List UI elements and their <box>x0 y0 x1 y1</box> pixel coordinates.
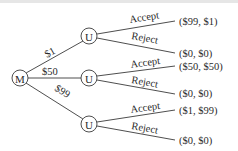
node-m: M <box>12 70 28 86</box>
payoff-reject-1: ($0, $0) <box>179 48 213 60</box>
payoff-accept-99: ($1, $99) <box>179 105 218 117</box>
offer-label-1: $1 <box>43 45 58 60</box>
node-u-99: U <box>81 116 97 132</box>
reject-label-99: Reject <box>131 120 159 136</box>
node-u-50-label: U <box>85 73 93 85</box>
offer-label-50: $50 <box>42 66 58 77</box>
accept-label-1: Accept <box>129 9 160 25</box>
node-u-1: U <box>81 28 97 44</box>
reject-label-1: Reject <box>131 30 159 46</box>
payoff-accept-50: ($50, $50) <box>179 61 223 73</box>
node-u-1-label: U <box>85 31 93 43</box>
node-m-label: M <box>15 73 25 85</box>
accept-label-50: Accept <box>130 55 161 70</box>
node-u-99-label: U <box>85 119 93 131</box>
offer-label-99: $99 <box>53 82 72 100</box>
payoff-reject-99: ($0, $0) <box>179 135 213 147</box>
reject-label-50: Reject <box>131 74 159 90</box>
payoff-reject-50: ($0, $0) <box>179 88 213 100</box>
game-tree-diagram: $1 $50 $99 Accept Reject ($99, $1) ($0, … <box>0 0 238 151</box>
node-u-50: U <box>81 70 97 86</box>
payoff-accept-1: ($99, $1) <box>179 16 218 28</box>
